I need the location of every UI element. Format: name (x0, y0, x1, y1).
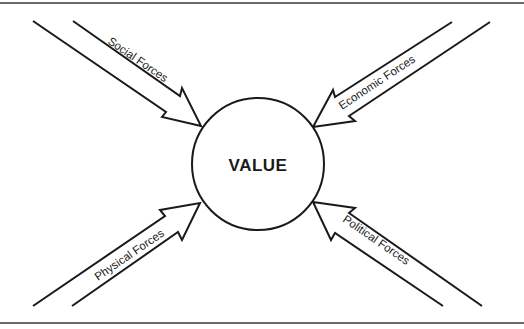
social-forces-arrow: Social Forces (33, 21, 201, 126)
economic-forces-arrow: Economic Forces (313, 22, 490, 127)
forces-diagram: Social Forces Economic Forces Physical F… (0, 0, 524, 329)
physical-forces-arrow: Physical Forces (33, 203, 200, 306)
economic-arrow-shape (313, 22, 490, 127)
economic-forces-label: Economic Forces (336, 52, 417, 111)
value-label: VALUE (229, 156, 288, 175)
physical-forces-label: Physical Forces (92, 227, 166, 283)
political-forces-arrow: Political Forces (313, 202, 482, 306)
value-node: VALUE (192, 98, 324, 230)
diagram-frame: Social Forces Economic Forces Physical F… (0, 0, 524, 329)
physical-arrow-shape (33, 203, 200, 306)
